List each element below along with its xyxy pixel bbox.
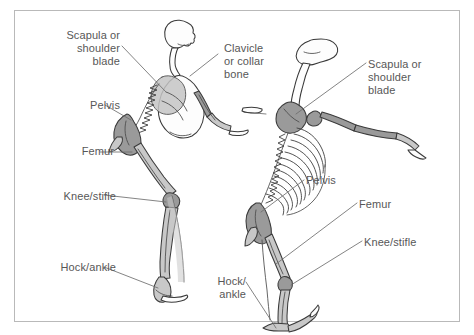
label-left-pelvis: Pelvis — [52, 99, 120, 112]
right-hock-ankle — [263, 323, 290, 331]
leader-right-knee — [291, 241, 362, 285]
left-foreleg-radius — [207, 113, 231, 131]
right-sternum-curve — [287, 165, 325, 215]
right-foreleg-humerus — [320, 112, 356, 131]
label-left-hock-ankle: Hock/ankle — [16, 261, 116, 274]
label-right-hock-ankle: Hock/ ankle — [196, 275, 246, 301]
right-foreleg-radius — [354, 125, 397, 139]
right-femur — [265, 234, 290, 281]
label-right-scapula: Scapula or shoulder blade — [368, 58, 460, 98]
leader-left-scapula — [122, 46, 166, 92]
label-right-clavicle: Clavicle or collar bone — [224, 42, 300, 82]
leader-right-clavicle — [190, 54, 218, 76]
right-scapula-block — [276, 102, 306, 133]
label-right-knee-stifle: Knee/stifle — [364, 236, 454, 249]
label-left-knee-stifle: Knee/stifle — [20, 190, 116, 203]
left-femur — [134, 143, 176, 196]
label-right-femur: Femur — [359, 198, 421, 211]
right-spine-line — [260, 133, 288, 207]
right-hind-paw-tip — [310, 305, 319, 317]
leader-right-pelvis — [261, 180, 304, 212]
leader-right-femur — [276, 203, 357, 264]
left-femur-shading — [138, 149, 165, 188]
right-skull — [296, 39, 338, 65]
left-skull — [165, 20, 195, 48]
label-left-scapula: Scapula or shoulder blade — [24, 29, 120, 69]
left-cervical-spine — [170, 48, 180, 77]
label-right-pelvis: Pelvis — [306, 174, 366, 187]
left-hind-paw — [161, 295, 188, 302]
right-foreleg-pastern — [396, 133, 419, 150]
left-foreleg-paw — [229, 130, 248, 135]
right-far-shoulder — [307, 111, 322, 126]
right-forepaw — [408, 150, 426, 159]
label-left-femur: Femur — [46, 145, 114, 158]
skeleton-diagram-figure: .bone { stroke: #3a3a3a; stroke-width: 1… — [0, 0, 474, 335]
right-clavicle-bone — [242, 107, 262, 113]
leader-right-hock — [246, 282, 276, 328]
